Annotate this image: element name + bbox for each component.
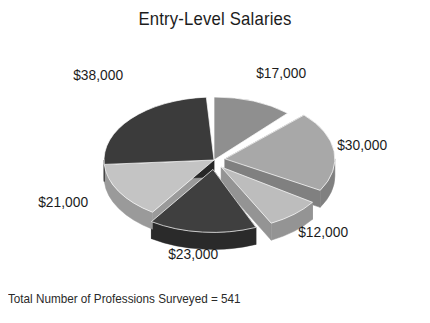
pie-chart-figure: Entry-Level Salaries $17,000 $30,000 $12… (0, 0, 430, 323)
pie-chart-graphic (0, 0, 430, 323)
pie-slice-top-38000 (104, 97, 214, 164)
total-surveyed-note: Total Number of Professions Surveyed = 5… (8, 291, 241, 306)
slice-label-12000: $12,000 (298, 223, 348, 240)
slice-label-23000: $23,000 (168, 245, 218, 262)
slice-label-38000: $38,000 (73, 66, 123, 83)
slice-label-17000: $17,000 (256, 64, 306, 81)
slice-label-21000: $21,000 (38, 193, 88, 210)
slice-label-30000: $30,000 (337, 136, 387, 153)
